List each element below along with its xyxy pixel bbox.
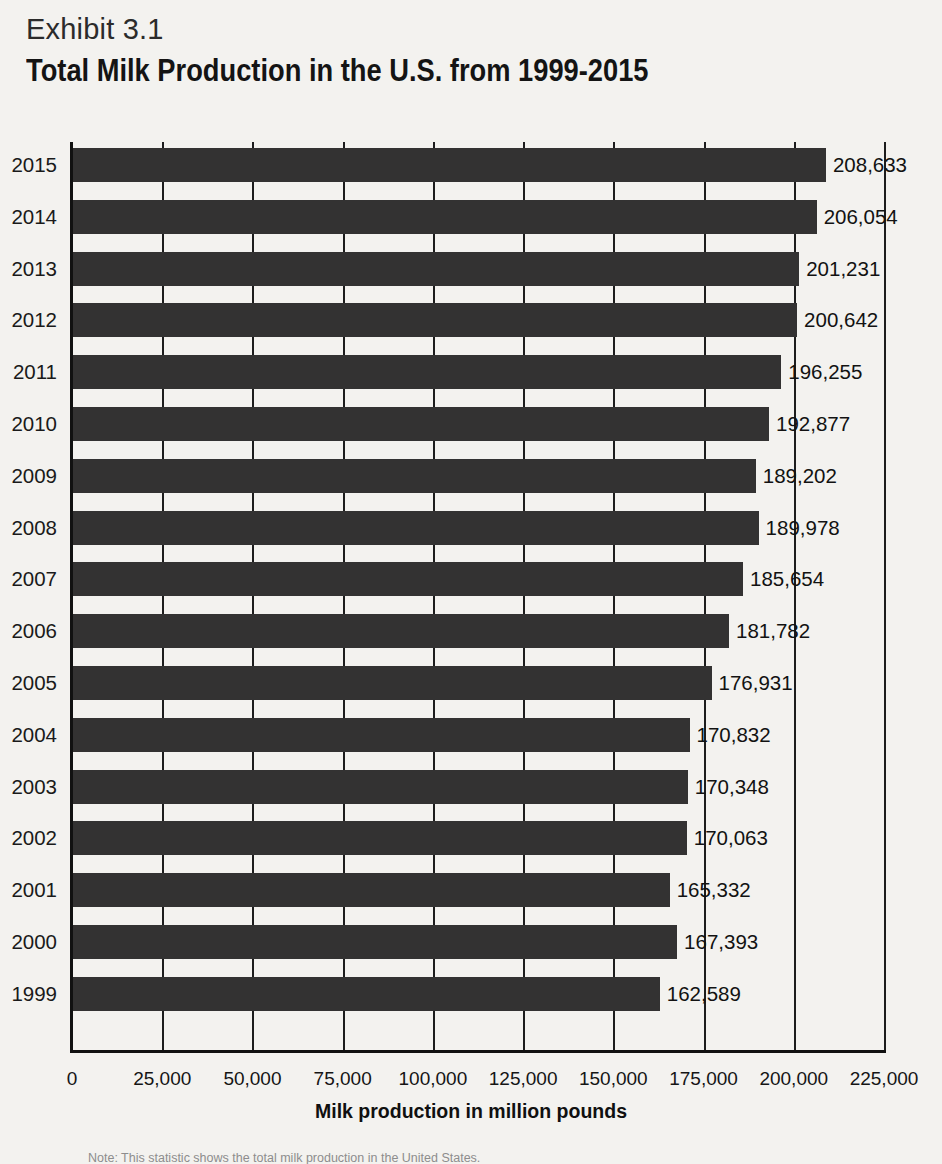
bar-row: 2011196,255 bbox=[0, 355, 942, 389]
x-tick-label: 0 bbox=[67, 1068, 78, 1090]
bar-year-label: 2013 bbox=[0, 258, 57, 279]
bar-value-label: 165,332 bbox=[677, 880, 751, 901]
bar-value-label: 176,931 bbox=[719, 673, 793, 694]
bar-row: 2015208,633 bbox=[0, 148, 942, 182]
bar bbox=[73, 355, 781, 389]
bar-value-label: 189,202 bbox=[763, 466, 837, 487]
bar-year-label: 2005 bbox=[0, 673, 57, 694]
bar-year-label: 2004 bbox=[0, 725, 57, 746]
bar-year-label: 2011 bbox=[0, 362, 57, 383]
bar-year-label: 2001 bbox=[0, 880, 57, 901]
bar bbox=[73, 252, 799, 286]
bar-value-label: 192,877 bbox=[776, 414, 850, 435]
bar-row: 2003170,348 bbox=[0, 770, 942, 804]
x-tick-label: 75,000 bbox=[314, 1068, 372, 1090]
x-tick-label: 50,000 bbox=[223, 1068, 281, 1090]
bar-year-label: 2008 bbox=[0, 517, 57, 538]
exhibit-label: Exhibit 3.1 bbox=[26, 14, 916, 46]
chart-plot-area: 2015208,6332014206,0542013201,2312012200… bbox=[0, 138, 942, 1063]
bar-year-label: 2007 bbox=[0, 569, 57, 590]
bar-row: 2008189,978 bbox=[0, 511, 942, 545]
x-tick-label: 150,000 bbox=[579, 1068, 648, 1090]
x-axis-tick-labels: 025,00050,00075,000100,000125,000150,000… bbox=[0, 1068, 942, 1094]
bar-year-label: 2012 bbox=[0, 310, 57, 331]
bar-value-label: 185,654 bbox=[750, 569, 824, 590]
bar-year-label: 2015 bbox=[0, 155, 57, 176]
bar-row: 2005176,931 bbox=[0, 666, 942, 700]
x-tick-label: 225,000 bbox=[850, 1068, 919, 1090]
bar-row: 2009189,202 bbox=[0, 459, 942, 493]
chart-header: Exhibit 3.1 Total Milk Production in the… bbox=[26, 14, 916, 89]
bar-value-label: 189,978 bbox=[766, 517, 840, 538]
bar bbox=[73, 821, 687, 855]
bar-value-label: 201,231 bbox=[806, 258, 880, 279]
bar bbox=[73, 873, 670, 907]
bar-value-label: 208,633 bbox=[833, 155, 907, 176]
x-axis-title: Milk production in million pounds bbox=[0, 1100, 942, 1123]
bar bbox=[73, 977, 660, 1011]
x-tick-label: 175,000 bbox=[669, 1068, 738, 1090]
bar bbox=[73, 407, 769, 441]
bar-value-label: 181,782 bbox=[736, 621, 810, 642]
x-tick-label: 100,000 bbox=[399, 1068, 468, 1090]
bar-row: 2002170,063 bbox=[0, 821, 942, 855]
bar-year-label: 2006 bbox=[0, 621, 57, 642]
bar-year-label: 2009 bbox=[0, 466, 57, 487]
bar bbox=[73, 511, 759, 545]
footnote-text: Note: This statistic shows the total mil… bbox=[88, 1151, 480, 1164]
bar bbox=[73, 614, 729, 648]
page-title: Total Milk Production in the U.S. from 1… bbox=[26, 53, 809, 89]
bar-row: 2012200,642 bbox=[0, 303, 942, 337]
bar-row: 2000167,393 bbox=[0, 925, 942, 959]
x-tick-label: 200,000 bbox=[759, 1068, 828, 1090]
bar-row: 2007185,654 bbox=[0, 562, 942, 596]
bar-year-label: 2000 bbox=[0, 932, 57, 953]
bar-value-label: 200,642 bbox=[804, 310, 878, 331]
bar bbox=[73, 925, 677, 959]
bar bbox=[73, 200, 817, 234]
bar-year-label: 2003 bbox=[0, 776, 57, 797]
bar-value-label: 170,348 bbox=[695, 776, 769, 797]
bar-year-label: 2010 bbox=[0, 414, 57, 435]
bar-row: 2010192,877 bbox=[0, 407, 942, 441]
bar-rows: 2015208,6332014206,0542013201,2312012200… bbox=[0, 138, 942, 1048]
bar-row: 2013201,231 bbox=[0, 252, 942, 286]
bar-value-label: 167,393 bbox=[684, 932, 758, 953]
bar bbox=[73, 459, 756, 493]
bar-year-label: 2002 bbox=[0, 828, 57, 849]
bar bbox=[73, 303, 797, 337]
bar-row: 2006181,782 bbox=[0, 614, 942, 648]
bar-row: 2014206,054 bbox=[0, 200, 942, 234]
bar-value-label: 170,063 bbox=[694, 828, 768, 849]
x-tick-label: 25,000 bbox=[133, 1068, 191, 1090]
bar bbox=[73, 562, 743, 596]
footnote-container: Note: This statistic shows the total mil… bbox=[0, 1151, 942, 1164]
x-axis-line bbox=[70, 1050, 886, 1053]
bar-value-label: 162,589 bbox=[667, 984, 741, 1005]
bar-year-label: 1999 bbox=[0, 984, 57, 1005]
bar bbox=[73, 718, 690, 752]
bar-row: 2004170,832 bbox=[0, 718, 942, 752]
bar-year-label: 2014 bbox=[0, 207, 57, 228]
x-tick-label: 125,000 bbox=[489, 1068, 558, 1090]
bar-value-label: 196,255 bbox=[788, 362, 862, 383]
bar bbox=[73, 770, 688, 804]
bar-value-label: 170,832 bbox=[697, 725, 771, 746]
bar bbox=[73, 666, 712, 700]
bar-row: 2001165,332 bbox=[0, 873, 942, 907]
bar bbox=[73, 148, 826, 182]
bar-value-label: 206,054 bbox=[824, 207, 898, 228]
bar-row: 1999162,589 bbox=[0, 977, 942, 1011]
